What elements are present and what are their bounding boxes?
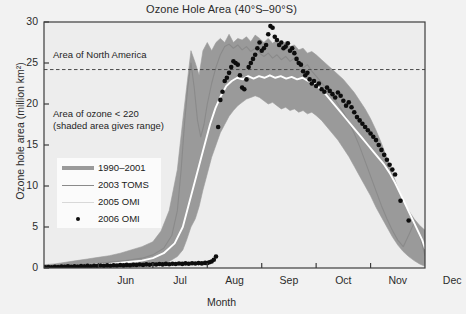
legend-item-1: 2003 TOMS (57, 177, 161, 193)
legend-swatch-dot-2006 (62, 211, 94, 227)
x-tick-label-jul: Jul (158, 274, 202, 286)
y-tick-label-15: 15 (12, 138, 38, 150)
y-tick-label-20: 20 (12, 97, 38, 109)
y-tick-label-5: 5 (12, 220, 38, 232)
x-tick-label-sep: Sep (267, 274, 311, 286)
legend-item-2: 2005 OMI (57, 194, 161, 210)
y-tick-label-0: 0 (12, 261, 38, 273)
chart-legend: 1990–2001 2003 TOMS 2005 OMI 2006 OMI (57, 158, 161, 228)
y-tick-label-25: 25 (12, 56, 38, 68)
x-tick-label-dec: Dec (430, 274, 466, 286)
x-tick-label-aug: Aug (213, 274, 257, 286)
annotation-area-of-north-america: Area of North America (53, 49, 146, 61)
legend-label-1: 2003 TOMS (98, 179, 149, 190)
legend-label-0: 1990–2001 (98, 162, 146, 173)
legend-swatch-band (62, 160, 94, 176)
annotation-ozone-threshold: Area of ozone < 220 (shaded area gives r… (53, 108, 164, 131)
x-tick-label-oct: Oct (321, 274, 365, 286)
legend-label-2: 2005 OMI (98, 196, 140, 207)
y-tick-label-10: 10 (12, 179, 38, 191)
x-tick-label-jun: Jun (104, 274, 148, 286)
legend-swatch-line-2005 (62, 194, 94, 210)
legend-swatch-line-2003 (62, 177, 94, 193)
legend-item-3: 2006 OMI (57, 211, 161, 227)
y-tick-label-30: 30 (12, 15, 38, 27)
legend-label-3: 2006 OMI (98, 213, 140, 224)
legend-item-0: 1990–2001 (57, 160, 161, 176)
x-tick-label-nov: Nov (376, 274, 420, 286)
